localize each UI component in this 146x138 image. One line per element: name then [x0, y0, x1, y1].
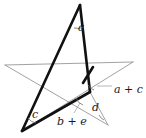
angle-label-d: d	[92, 101, 99, 114]
pentagram-diagram: a a + c d b + e c	[0, 0, 146, 138]
angle-label-a-plus-c-trail: c	[137, 83, 143, 96]
thin-edge-left-outer-to-right-outer	[5, 62, 133, 65]
geometry-figure-container: a a + c d b + e c	[0, 0, 146, 138]
angle-label-c: c	[32, 108, 38, 121]
angle-label-a: a	[78, 21, 85, 34]
angle-label-b-plus-e-lead: b	[57, 115, 64, 128]
angle-label-a-plus-c: a + c	[114, 83, 143, 96]
angle-label-b-plus-e-trail: e	[80, 115, 87, 128]
angle-label-b-plus-e: b + e	[57, 115, 87, 128]
angle-label-a-plus-c-op: +	[121, 83, 137, 96]
angle-label-b-plus-e-op: +	[64, 115, 80, 128]
thick-edge-apex-to-bottom-left	[22, 5, 80, 131]
